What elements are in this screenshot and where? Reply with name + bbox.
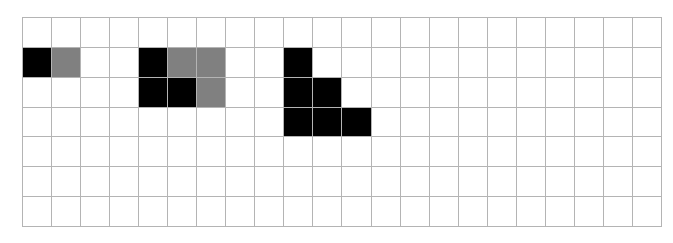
grid-cell-empty — [110, 137, 139, 167]
grid-cell-empty — [197, 167, 226, 197]
grid-cell-empty — [459, 197, 488, 227]
grid-cell-empty — [226, 48, 255, 78]
grid-cell-empty — [401, 78, 430, 108]
grid-cell-empty — [372, 137, 401, 167]
grid-cell-empty — [459, 167, 488, 197]
grid-cell-empty — [81, 48, 110, 78]
grid-cell-empty — [546, 48, 575, 78]
grid-cell-empty — [81, 108, 110, 138]
grid-cell-empty — [430, 167, 459, 197]
grid-cell-empty — [81, 78, 110, 108]
grid-cell-empty — [459, 137, 488, 167]
grid-cell-empty — [284, 137, 313, 167]
grid-cell-empty — [52, 18, 81, 48]
grid-cell-empty — [459, 108, 488, 138]
grid-cell-empty — [604, 197, 633, 227]
grid-cell-empty — [23, 18, 52, 48]
grid-cell-empty — [488, 78, 517, 108]
pattern-grid — [22, 17, 662, 227]
grid-cell-empty — [52, 78, 81, 108]
grid-cell-empty — [517, 108, 546, 138]
grid-cell-empty — [226, 108, 255, 138]
grid-cell-empty — [255, 197, 284, 227]
grid-cell-empty — [517, 167, 546, 197]
grid-cell-empty — [633, 197, 662, 227]
grid-cell-empty — [139, 137, 168, 167]
grid-cell-empty — [488, 48, 517, 78]
grid-cell-empty — [255, 48, 284, 78]
grid-cell-empty — [430, 48, 459, 78]
grid-cell-empty — [168, 18, 197, 48]
grid-cell-empty — [517, 137, 546, 167]
grid-cell-empty — [575, 137, 604, 167]
grid-cell-empty — [81, 167, 110, 197]
grid-cell-empty — [342, 48, 371, 78]
grid-cell-empty — [313, 137, 342, 167]
grid-cell-empty — [575, 108, 604, 138]
grid-cell-black — [168, 78, 197, 108]
grid-cell-empty — [226, 167, 255, 197]
grid-cell-empty — [226, 197, 255, 227]
grid-cell-empty — [168, 167, 197, 197]
grid-cell-empty — [633, 78, 662, 108]
grid-cell-empty — [110, 197, 139, 227]
grid-cell-black — [342, 108, 371, 138]
grid-cell-empty — [546, 197, 575, 227]
grid-cell-empty — [546, 167, 575, 197]
grid-cell-empty — [517, 48, 546, 78]
grid-cell-empty — [546, 78, 575, 108]
grid-cell-empty — [23, 78, 52, 108]
grid-cell-empty — [401, 48, 430, 78]
grid-cell-empty — [110, 78, 139, 108]
grid-cell-empty — [430, 78, 459, 108]
grid-cell-black — [284, 48, 313, 78]
grid-cell-empty — [372, 197, 401, 227]
grid-cell-empty — [575, 18, 604, 48]
grid-cell-empty — [604, 48, 633, 78]
grid-cell-empty — [401, 108, 430, 138]
grid-cell-empty — [372, 48, 401, 78]
grid-cell-black — [139, 48, 168, 78]
grid-cell-empty — [313, 18, 342, 48]
grid-cell-empty — [488, 167, 517, 197]
grid-cell-empty — [168, 137, 197, 167]
grid-cell-empty — [313, 167, 342, 197]
grid-cell-empty — [575, 197, 604, 227]
grid-cell-empty — [604, 78, 633, 108]
grid-cell-empty — [139, 167, 168, 197]
grid-cell-empty — [459, 78, 488, 108]
grid-cell-empty — [284, 18, 313, 48]
grid-cell-empty — [401, 18, 430, 48]
grid-cell-empty — [110, 18, 139, 48]
grid-cell-empty — [52, 108, 81, 138]
grid-cell-black — [284, 78, 313, 108]
grid-cell-empty — [372, 18, 401, 48]
grid-cell-empty — [23, 197, 52, 227]
grid-cell-empty — [342, 78, 371, 108]
grid-cell-black — [23, 48, 52, 78]
grid-cell-empty — [342, 18, 371, 48]
grid-cell-empty — [139, 108, 168, 138]
grid-cell-black — [284, 108, 313, 138]
grid-cell-empty — [284, 167, 313, 197]
grid-cell-empty — [401, 197, 430, 227]
grid-cell-empty — [633, 137, 662, 167]
grid-cell-empty — [430, 197, 459, 227]
grid-cell-empty — [52, 197, 81, 227]
grid-cell-gray — [197, 78, 226, 108]
grid-cell-empty — [110, 167, 139, 197]
grid-cell-empty — [23, 108, 52, 138]
grid-cell-empty — [342, 137, 371, 167]
grid-cell-empty — [488, 197, 517, 227]
grid-cell-empty — [575, 78, 604, 108]
grid-cell-empty — [488, 108, 517, 138]
grid-cell-black — [313, 108, 342, 138]
grid-cell-empty — [633, 108, 662, 138]
grid-cell-empty — [226, 137, 255, 167]
grid-cell-empty — [313, 197, 342, 227]
grid-cell-empty — [139, 18, 168, 48]
grid-cell-empty — [633, 48, 662, 78]
grid-cell-empty — [168, 108, 197, 138]
grid-cell-empty — [372, 108, 401, 138]
grid-cell-empty — [81, 18, 110, 48]
